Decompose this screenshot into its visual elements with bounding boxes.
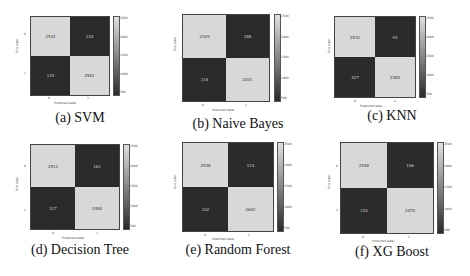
x-tick: 0 xyxy=(362,235,364,239)
confusion-matrix: 2538 114 102 2602 xyxy=(182,142,274,232)
confusion-matrix: 2532 93 427 2384 xyxy=(334,16,416,98)
panel-svm: True label 0 1 2532 144 133 2561 2500200… xyxy=(2,4,158,142)
cell-tn: 2538 xyxy=(183,143,228,187)
colorbar-ticks: 2500200015001000500 xyxy=(120,16,128,94)
cell-tn: 2532 xyxy=(335,17,375,57)
caption: (e) Random Forest xyxy=(160,242,316,258)
y-axis-label: True label xyxy=(327,175,331,190)
cell-tp: 2431 xyxy=(226,58,269,101)
colorbar-ticks: 2500200015001000500 xyxy=(281,14,289,100)
x-axis-label: Predicted label xyxy=(54,101,76,105)
cell-tn: 2548 xyxy=(341,143,387,188)
cell-fp: 106 xyxy=(387,143,433,188)
x-tick: 1 xyxy=(96,231,98,235)
colorbar-ticks: 2500200015001000500 xyxy=(426,16,434,96)
caption: (a) SVM xyxy=(2,110,158,126)
cell-fn: 133 xyxy=(31,56,70,95)
cell-fn: 317 xyxy=(31,187,75,229)
y-tick: 0 xyxy=(24,32,26,36)
panel-naive-bayes: True label 0 1 2329 188 116 2431 2500200… xyxy=(160,2,316,140)
cell-fp: 144 xyxy=(70,17,109,56)
x-axis-label: Predicted label xyxy=(212,108,234,112)
cell-tp: 2602 xyxy=(228,187,273,231)
y-axis-label: True label xyxy=(15,39,19,54)
cell-fp: 93 xyxy=(375,17,415,57)
x-tick: 1 xyxy=(408,235,410,239)
cell-fp: 161 xyxy=(75,145,119,187)
colorbar xyxy=(274,14,281,102)
x-axis-label: Predicted label xyxy=(372,239,394,243)
caption: (f) XG Boost xyxy=(314,244,470,260)
x-tick: 1 xyxy=(248,233,250,237)
x-axis-label: Predicted label xyxy=(62,236,84,240)
x-tick: 0 xyxy=(204,233,206,237)
x-tick: 0 xyxy=(48,96,50,100)
y-axis-label: True label xyxy=(15,177,19,192)
colorbar-ticks: 2500200015001000500 xyxy=(284,142,292,230)
y-axis-label: True label xyxy=(173,175,177,190)
panel-xg-boost: True label 0 1 2548 106 120 2470 2500200… xyxy=(314,140,470,276)
cell-tn: 2329 xyxy=(183,15,226,58)
y-tick: 1 xyxy=(336,208,338,212)
x-tick: 0 xyxy=(52,231,54,235)
x-axis-label: Predicted label xyxy=(212,237,234,241)
caption: (d) Decision Tree xyxy=(2,242,158,258)
colorbar-ticks: 2500200015001000500 xyxy=(444,142,452,232)
colorbar xyxy=(113,16,120,96)
y-tick: 0 xyxy=(24,164,26,168)
x-tick: 0 xyxy=(202,103,204,107)
confusion-matrix: 2548 106 120 2470 xyxy=(340,142,434,234)
panel-random-forest: True label 0 1 2538 114 102 2602 2500200… xyxy=(160,140,316,276)
cell-tp: 2561 xyxy=(70,56,109,95)
x-tick: 1 xyxy=(394,99,396,103)
y-tick: 0 xyxy=(336,164,338,168)
cell-tp: 2484 xyxy=(75,187,119,229)
colorbar xyxy=(419,16,426,98)
cell-fn: 427 xyxy=(335,57,375,97)
caption: (c) KNN xyxy=(314,108,470,124)
confusion-matrix: 2511 161 317 2484 xyxy=(30,144,120,230)
confusion-matrix: 2329 188 116 2431 xyxy=(182,14,270,102)
colorbar xyxy=(277,142,284,232)
y-tick: 1 xyxy=(24,208,26,212)
figure-grid: True label 0 1 2532 144 133 2561 2500200… xyxy=(0,0,470,276)
x-tick: 0 xyxy=(354,99,356,103)
colorbar xyxy=(437,142,444,234)
cell-fn: 116 xyxy=(183,58,226,101)
y-tick: 1 xyxy=(24,71,26,75)
cell-tp: 2470 xyxy=(387,188,433,233)
panel-knn: True label 0 1 2532 93 427 2384 25002000… xyxy=(314,4,470,142)
y-axis-label: True label xyxy=(327,39,331,54)
cell-fn: 102 xyxy=(183,187,228,231)
x-tick: 1 xyxy=(245,103,247,107)
cell-tn: 2532 xyxy=(31,17,70,56)
caption: (b) Naive Bayes xyxy=(160,116,316,132)
cell-tp: 2384 xyxy=(375,57,415,97)
x-tick: 1 xyxy=(87,96,89,100)
panel-decision-tree: True label 0 1 2511 161 317 2484 2500200… xyxy=(2,142,158,276)
cell-fn: 120 xyxy=(341,188,387,233)
colorbar-ticks: 2500200015001000500 xyxy=(130,144,138,228)
y-axis-label: True label xyxy=(173,37,177,52)
cell-fp: 188 xyxy=(226,15,269,58)
cell-fp: 114 xyxy=(228,143,273,187)
colorbar xyxy=(123,144,130,230)
confusion-matrix: 2532 144 133 2561 xyxy=(30,16,110,96)
cell-tn: 2511 xyxy=(31,145,75,187)
